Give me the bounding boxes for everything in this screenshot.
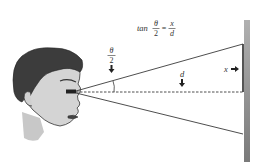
mouth bbox=[68, 115, 78, 119]
formula-lhs-denominator: 2 bbox=[154, 29, 158, 38]
person-head bbox=[13, 48, 83, 141]
formula-rhs-numerator: x bbox=[169, 19, 174, 28]
formula: tan θ 2 = x d bbox=[137, 19, 176, 38]
formula-rhs-denominator: d bbox=[170, 29, 175, 38]
half-angle-denominator: 2 bbox=[110, 56, 114, 65]
half-width-text: x bbox=[223, 64, 228, 74]
half-angle-arc bbox=[113, 81, 114, 92]
half-angle-label: θ 2 bbox=[108, 46, 116, 73]
formula-prefix: tan bbox=[137, 23, 148, 33]
distance-label: d bbox=[179, 69, 185, 87]
down-arrow-icon bbox=[109, 65, 115, 73]
half-angle-numerator: θ bbox=[110, 46, 114, 55]
formula-lhs-numerator: θ bbox=[154, 19, 158, 28]
right-arrow-icon bbox=[231, 66, 239, 72]
lower-sight-line bbox=[76, 93, 243, 134]
distance-text: d bbox=[180, 69, 185, 79]
half-width-label: x bbox=[223, 64, 239, 74]
down-arrow-icon bbox=[179, 79, 185, 87]
eye bbox=[66, 90, 76, 94]
upper-sight-line bbox=[76, 44, 243, 91]
formula-equals: = bbox=[162, 24, 167, 33]
viewing-angle-diagram: tan θ 2 = x d θ 2 d x bbox=[0, 0, 267, 168]
wall bbox=[244, 20, 250, 162]
